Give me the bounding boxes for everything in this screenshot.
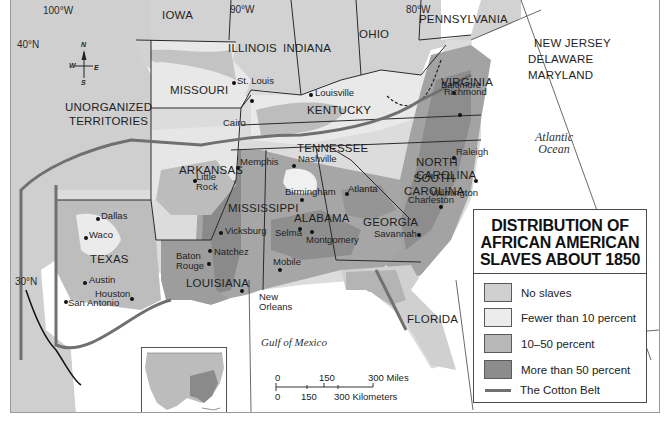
- atlantic-ocean-label: Atlantic Ocean: [535, 131, 573, 155]
- legend-swatch-10-50: [484, 334, 512, 353]
- city-label-baton-rouge: Baton Rouge: [176, 251, 204, 270]
- state-label-ohio: Ohio: [359, 29, 389, 41]
- legend-line-cotton-belt: [485, 389, 511, 392]
- city-label-birmingham: Birmingham: [285, 187, 336, 197]
- city-label-nashville: Nashville: [298, 154, 337, 164]
- state-label-alabama: Alabama: [294, 213, 350, 225]
- city-label-raleigh: Raleigh: [456, 147, 488, 157]
- city-label-louisville: Louisville: [315, 88, 354, 98]
- state-label-illinois: Illinois: [228, 43, 277, 55]
- legend-item-no-slaves: No slaves: [484, 283, 572, 302]
- city-label-charleston: Charleston: [408, 195, 454, 205]
- state-label-florida: Florida: [407, 314, 458, 326]
- city-label-vicksburg: Vicksburg: [225, 226, 267, 236]
- city-label-atlanta: Atlanta: [348, 184, 378, 194]
- city-label-richmond: Richmond: [444, 87, 487, 97]
- state-label-pennsylvania: Pennsylvania: [419, 14, 508, 26]
- map-legend: No slaves Fewer than 10 percent 10–50 pe…: [473, 273, 647, 403]
- inset-locator-map: [141, 347, 227, 413]
- state-label-texas: Texas: [90, 254, 129, 266]
- gulf-of-mexico-label: Gulf of Mexico: [261, 337, 327, 348]
- city-label-dallas: Dallas: [101, 211, 127, 221]
- state-label-kentucky: Kentucky: [307, 105, 371, 117]
- city-label-montgomery: Montgomery: [306, 235, 359, 245]
- city-label-natchez: Natchez: [214, 247, 249, 257]
- map-title: Distribution of African American Slaves …: [480, 217, 640, 268]
- state-label-georgia: Georgia: [363, 217, 418, 229]
- state-label-indiana: Indiana: [283, 43, 331, 55]
- city-label-selma: Selma: [275, 228, 302, 238]
- legend-item-cotton-belt: The Cotton Belt: [484, 384, 600, 396]
- compass-s: S: [81, 79, 86, 86]
- state-label-delaware: Delaware: [528, 54, 593, 66]
- compass-rose-icon: N W E S: [69, 44, 99, 84]
- latitude-30n-label: 30°N: [15, 277, 37, 287]
- city-label-mobile: Mobile: [273, 257, 301, 267]
- legend-item-fewer-than-10: Fewer than 10 percent: [484, 308, 636, 327]
- city-label-memphis: Memphis: [240, 157, 279, 167]
- state-label-unorganized-territories: Unorganized Territories: [65, 102, 152, 127]
- city-label-new-orleans: New Orleans: [259, 292, 292, 311]
- longitude-90w-label: 90°W: [230, 5, 255, 15]
- legend-swatch-fewer-than-10: [484, 308, 512, 327]
- city-label-waco: Waco: [89, 230, 113, 240]
- state-label-missouri: Missouri: [170, 85, 228, 97]
- legend-swatch-no-slaves: [484, 283, 512, 302]
- longitude-100w-label: 100°W: [43, 6, 73, 16]
- compass-e: E: [94, 64, 99, 71]
- city-label-st-louis: St. Louis: [237, 76, 274, 86]
- state-label-iowa: Iowa: [162, 10, 193, 22]
- map-title-box: Distribution of African American Slaves …: [473, 209, 647, 275]
- city-label-san-antonio: San Antonio: [68, 298, 119, 308]
- state-label-new-jersey: New Jersey: [534, 38, 611, 50]
- map-frame: 100°W 90°W 80°W 40°N 30°N N W E S Iowa I…: [10, 0, 660, 413]
- city-label-cairo: Cairo: [223, 118, 246, 128]
- latitude-40n-label: 40°N: [17, 40, 39, 50]
- compass-n: N: [81, 41, 86, 48]
- state-label-mississippi: Mississippi: [228, 203, 299, 215]
- legend-item-more-than-50: More than 50 percent: [484, 360, 630, 379]
- city-label-austin: Austin: [89, 275, 115, 285]
- legend-item-10-50: 10–50 percent: [484, 334, 595, 353]
- compass-w: W: [69, 62, 76, 69]
- city-label-savannah: Savannah: [374, 229, 417, 239]
- scale-bar: 0 150 300 Miles 0 150 300 Kilometers: [273, 372, 423, 402]
- legend-swatch-more-than-50: [484, 360, 512, 379]
- state-label-maryland: Maryland: [528, 70, 593, 82]
- city-label-little-rock: Little Rock: [196, 172, 218, 191]
- state-label-louisiana: Louisiana: [186, 278, 249, 290]
